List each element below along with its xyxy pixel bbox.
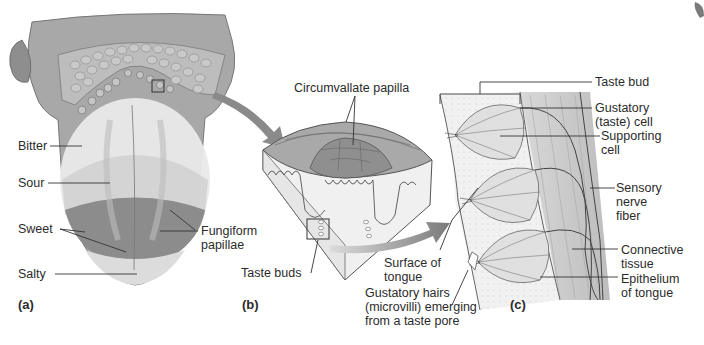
label-supporting-cell: Supporting cell — [601, 129, 661, 157]
page-corner-shadow — [695, 2, 704, 18]
label-salty: Salty — [18, 267, 46, 281]
label-gustatory-cell: Gustatory (taste) cell — [595, 101, 653, 129]
label-epithelium-of-tongue: Epithelium of tongue — [621, 272, 679, 300]
label-taste-bud: Taste bud — [595, 75, 649, 89]
panel-label-a: (a) — [18, 297, 34, 312]
label-gustatory-hairs: Gustatory hairs (microvilli) emerging fr… — [365, 286, 477, 328]
label-bitter: Bitter — [18, 139, 47, 153]
label-surface-of-tongue: Surface of tongue — [384, 256, 441, 284]
anatomy-illustration — [0, 0, 704, 345]
panel-label-b: (b) — [242, 297, 259, 312]
label-connective-tissue: Connective tissue — [621, 243, 684, 271]
label-fungiform-papillae: Fungiform papillae — [201, 224, 257, 252]
label-sour: Sour — [18, 176, 44, 190]
taste-bud-detail — [440, 82, 618, 310]
zoom-arrow-a-to-b — [212, 92, 285, 148]
label-sweet: Sweet — [18, 222, 53, 236]
label-circumvallate-papilla: Circumvallate papilla — [294, 81, 409, 95]
label-taste-buds: Taste buds — [241, 266, 301, 280]
panel-label-c: (c) — [510, 297, 526, 312]
label-sensory-nerve-fiber: Sensory nerve fiber — [616, 181, 662, 223]
